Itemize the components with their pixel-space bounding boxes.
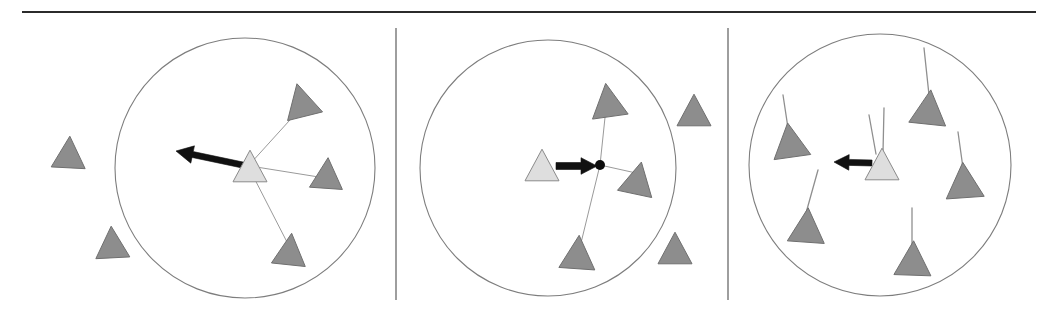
panel-2-centroid-dot [595, 160, 605, 170]
figure-root [0, 0, 1057, 332]
figure-canvas [0, 0, 1057, 332]
figure-background [0, 0, 1057, 332]
